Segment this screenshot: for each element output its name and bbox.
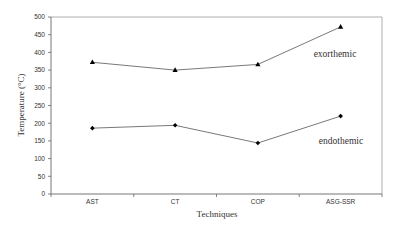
series-group: exorthemicendothemic (90, 24, 363, 146)
y-tick-label: 500 (34, 13, 45, 20)
diamond-marker-icon (256, 141, 261, 146)
line-chart: 050100150200250300350400450500 ASTCTCOPA… (0, 0, 400, 230)
y-tick-label: 200 (34, 120, 45, 127)
y-tick-label: 450 (34, 31, 45, 38)
chart-canvas: 050100150200250300350400450500 ASTCTCOPA… (0, 0, 400, 230)
y-tick-label: 350 (34, 66, 45, 73)
series-line (92, 27, 340, 70)
x-axis-title: Techniques (197, 209, 238, 219)
x-tick-label: COP (251, 198, 265, 205)
diamond-marker-icon (90, 126, 95, 131)
y-tick-label: 300 (34, 84, 45, 91)
plot-frame (51, 17, 382, 194)
y-tick-label: 250 (34, 102, 45, 109)
series-line (92, 116, 340, 143)
y-tick-label: 400 (34, 49, 45, 56)
y-tick-label: 100 (34, 155, 45, 162)
triangle-marker-icon (90, 60, 95, 65)
series-label: exorthemic (314, 49, 357, 59)
x-tick-label: AST (86, 198, 99, 205)
series-label: endothemic (319, 136, 363, 146)
x-axis: ASTCTCOPASG-SSR (51, 194, 382, 205)
diamond-marker-icon (173, 123, 178, 128)
y-tick-label: 150 (34, 137, 45, 144)
x-tick-label: ASG-SSR (326, 198, 356, 205)
y-tick-label: 0 (41, 190, 45, 197)
y-tick-label: 50 (38, 173, 46, 180)
series-exorthemic: exorthemic (90, 24, 357, 72)
y-axis: 050100150200250300350400450500 (34, 13, 51, 197)
x-tick-label: CT (171, 198, 180, 205)
y-axis-title: Temperature (°C) (16, 73, 26, 136)
series-endothemic: endothemic (90, 114, 363, 146)
diamond-marker-icon (338, 114, 343, 119)
triangle-marker-icon (338, 24, 343, 29)
